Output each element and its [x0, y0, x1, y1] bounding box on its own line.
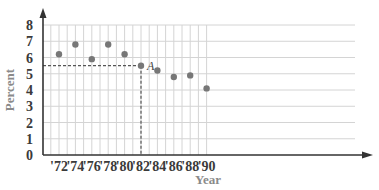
x-tick-label: '72	[50, 159, 68, 174]
y-tick-label: 6	[26, 51, 33, 66]
x-tick-label: '82	[132, 159, 150, 174]
data-point	[154, 67, 160, 73]
data-point	[171, 74, 177, 80]
y-tick-label: 1	[26, 132, 33, 147]
y-axis-title: Percent	[2, 68, 17, 111]
grid-lines	[43, 25, 355, 155]
data-point	[56, 51, 62, 57]
x-tick-label: '76	[83, 159, 101, 174]
annotation-label-a: A	[146, 59, 155, 73]
data-point	[89, 56, 95, 62]
x-tick-label: '78	[99, 159, 117, 174]
data-point	[105, 41, 111, 47]
y-tick-label: 0	[26, 148, 33, 163]
y-tick-label: 7	[26, 34, 33, 49]
y-tick-label: 8	[26, 18, 33, 33]
data-point	[203, 85, 209, 91]
y-tick-labels: 012345678	[26, 18, 33, 163]
data-point	[138, 62, 144, 68]
y-tick-label: 3	[26, 99, 33, 114]
x-tick-label: '80	[116, 159, 134, 174]
y-tick-label: 2	[26, 116, 33, 131]
x-tick-label: '74	[66, 159, 84, 174]
x-axis-title: Year	[195, 172, 221, 187]
data-point	[72, 41, 78, 47]
scatter-chart: 012345678 '72'74'76'78'80'82'84'86'88'90…	[0, 0, 379, 190]
x-tick-label: '86	[165, 159, 183, 174]
x-tick-labels: '72'74'76'78'80'82'84'86'88'90	[50, 159, 215, 174]
x-tick-label: '84	[148, 159, 166, 174]
data-point	[121, 51, 127, 57]
data-point	[187, 72, 193, 78]
y-tick-label: 5	[26, 67, 33, 82]
y-tick-label: 4	[26, 83, 33, 98]
